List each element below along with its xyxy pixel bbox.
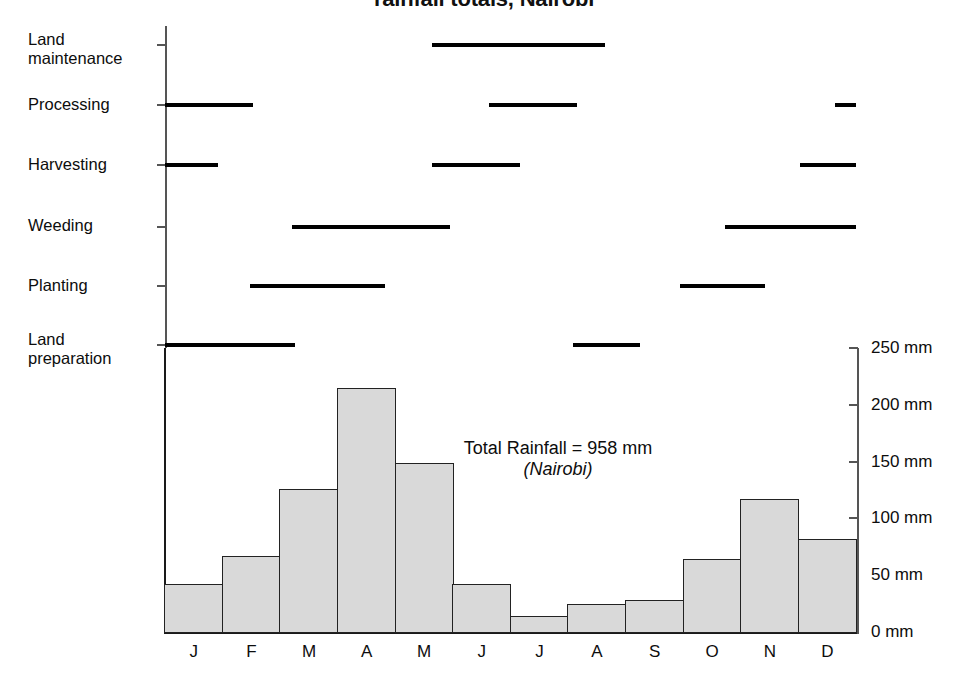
rainfall-y-label-150: 150 mm bbox=[871, 452, 932, 472]
month-label-december: D bbox=[799, 642, 857, 662]
chart-canvas: rainfall totals, Nairobi Land maintenanc… bbox=[0, 0, 968, 696]
rainfall-y-tick-250 bbox=[849, 347, 858, 349]
month-label-october: O bbox=[683, 642, 741, 662]
rainfall-bar-may bbox=[395, 463, 454, 634]
rainfall-bar-february bbox=[222, 556, 281, 634]
month-label-november: N bbox=[741, 642, 799, 662]
rainfall-y-label-250: 250 mm bbox=[871, 338, 932, 358]
rainfall-bar-june bbox=[452, 584, 511, 633]
annotation-total: Total Rainfall = 958 mm bbox=[408, 438, 708, 459]
month-label-january: J bbox=[165, 642, 223, 662]
month-label-march: M bbox=[280, 642, 338, 662]
rainfall-bar-chart: 0 mm50 mm100 mm150 mm200 mm250 mm JFMAMJ… bbox=[0, 0, 968, 696]
month-label-september: S bbox=[626, 642, 684, 662]
rainfall-y-tick-200 bbox=[849, 404, 858, 406]
rainfall-bar-january bbox=[164, 584, 223, 633]
rainfall-y-axis bbox=[857, 348, 859, 634]
rainfall-bar-july bbox=[510, 616, 569, 633]
rainfall-bar-august bbox=[567, 604, 626, 634]
rainfall-y-label-200: 200 mm bbox=[871, 395, 932, 415]
month-label-august: A bbox=[568, 642, 626, 662]
rainfall-bar-november bbox=[740, 499, 799, 633]
rainfall-y-label-0: 0 mm bbox=[871, 622, 914, 642]
month-label-june: J bbox=[453, 642, 511, 662]
month-label-may: M bbox=[395, 642, 453, 662]
rainfall-bar-october bbox=[683, 559, 742, 633]
rainfall-y-tick-150 bbox=[849, 461, 858, 463]
rainfall-bar-december bbox=[798, 539, 857, 634]
annotation-location: (Nairobi) bbox=[408, 459, 708, 480]
month-label-april: A bbox=[338, 642, 396, 662]
month-label-july: J bbox=[511, 642, 569, 662]
rainfall-bar-april bbox=[337, 388, 396, 634]
rainfall-y-label-100: 100 mm bbox=[871, 508, 932, 528]
rainfall-bar-march bbox=[279, 489, 338, 634]
rainfall-bar-september bbox=[625, 600, 684, 633]
rainfall-y-tick-100 bbox=[849, 517, 858, 519]
month-label-february: F bbox=[223, 642, 281, 662]
rainfall-y-label-50: 50 mm bbox=[871, 565, 923, 585]
rainfall-annotation: Total Rainfall = 958 mm (Nairobi) bbox=[408, 438, 708, 480]
